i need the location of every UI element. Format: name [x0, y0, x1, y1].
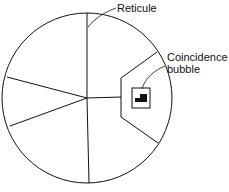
coincidence-leader-line: [142, 66, 165, 89]
reticule-label: Reticule: [117, 3, 157, 14]
reticule-line-right: [87, 97, 121, 98]
reticule-leader-line: [88, 8, 116, 27]
reticule-line-upper-left: [7, 77, 87, 98]
level-vial-diagram: [0, 0, 229, 192]
reticule-line-lower-left: [10, 98, 87, 126]
coincidence-label-line1: Coincidence: [167, 52, 228, 63]
coincidence-label-line2: bubble: [167, 64, 200, 75]
reticule-line-bottom: [87, 98, 89, 183]
